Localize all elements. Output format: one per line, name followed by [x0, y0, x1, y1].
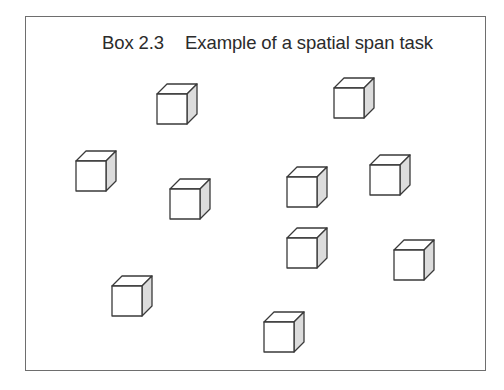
cube-5[interactable] — [287, 167, 327, 207]
cube-front-face — [287, 238, 317, 268]
cube-1[interactable] — [157, 84, 197, 124]
cube-4[interactable] — [170, 179, 210, 219]
cube-front-face — [170, 189, 200, 219]
cube-9[interactable] — [112, 276, 152, 316]
cube-front-face — [370, 165, 400, 195]
cube-front-face — [264, 322, 294, 352]
cube-field — [0, 0, 504, 390]
cube-front-face — [76, 161, 106, 191]
cube-8[interactable] — [394, 240, 434, 280]
cube-3[interactable] — [76, 151, 116, 191]
cube-7[interactable] — [287, 228, 327, 268]
cube-front-face — [394, 250, 424, 280]
cube-front-face — [287, 177, 317, 207]
cube-6[interactable] — [370, 155, 410, 195]
cube-front-face — [112, 286, 142, 316]
cube-front-face — [157, 94, 187, 124]
cube-10[interactable] — [264, 312, 304, 352]
cube-front-face — [334, 88, 364, 118]
cube-2[interactable] — [334, 78, 374, 118]
